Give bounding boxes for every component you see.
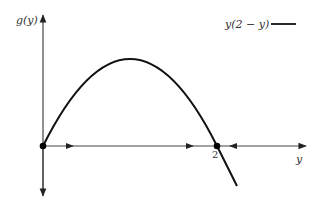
phase-diagram: g(y) y 2 y(2 − y) [0,0,321,205]
legend: y(2 − y) [224,18,296,31]
equilibrium-label-2: 2 [212,149,218,160]
y-axis-label: y [295,153,303,166]
curve-y-2-minus-y [43,59,237,186]
equilibrium-point-0 [40,143,47,150]
flow-arrow-left-icon [229,143,237,149]
g-axis-label: g(y) [16,14,38,27]
flow-arrow-right-icon [186,143,194,149]
flow-arrow-right-icon [66,143,74,149]
legend-label: y(2 − y) [224,18,269,31]
